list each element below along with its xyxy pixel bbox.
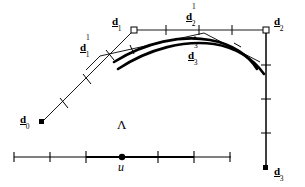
label-d2-1-sup: 1 <box>192 2 196 11</box>
point-marker-d0[interactable] <box>39 119 44 124</box>
figure-canvas <box>0 0 305 187</box>
label-u: u <box>118 161 124 173</box>
label-d1-superscript-1: d11 <box>80 38 94 57</box>
tick-mark <box>234 43 241 47</box>
label-d3-3-sub: 3 <box>194 58 198 67</box>
label-d3: d3 <box>274 162 284 181</box>
label-d2-superscript-1: d21 <box>186 7 200 26</box>
label-d1-1-sup: 1 <box>86 33 90 42</box>
curve-point-marker <box>194 37 197 40</box>
label-d1-1-sub: 1 <box>86 50 90 59</box>
label-d0: d0 <box>20 110 30 129</box>
label-d2: d2 <box>274 12 284 31</box>
point-marker-d1[interactable] <box>131 27 137 33</box>
label-d3-3-sup: 3 <box>194 41 198 50</box>
label-d3-sub: 3 <box>280 174 284 183</box>
label-d2-sub: 2 <box>280 24 284 33</box>
label-d3-superscript-3: d33 <box>188 46 202 65</box>
label-d1-sub: 1 <box>118 24 122 33</box>
label-d0-sub: 0 <box>26 122 30 131</box>
point-marker-d2[interactable] <box>263 27 269 33</box>
label-d2-1-sub: 2 <box>192 19 196 28</box>
label-lambda: Λ <box>117 118 126 131</box>
point-marker-d3[interactable] <box>263 165 268 170</box>
figure-container: d0 d1 d2 d3 d11 d21 d33 Λ u <box>0 0 305 187</box>
label-d1: d1 <box>112 12 122 31</box>
tick-mark <box>83 74 91 84</box>
